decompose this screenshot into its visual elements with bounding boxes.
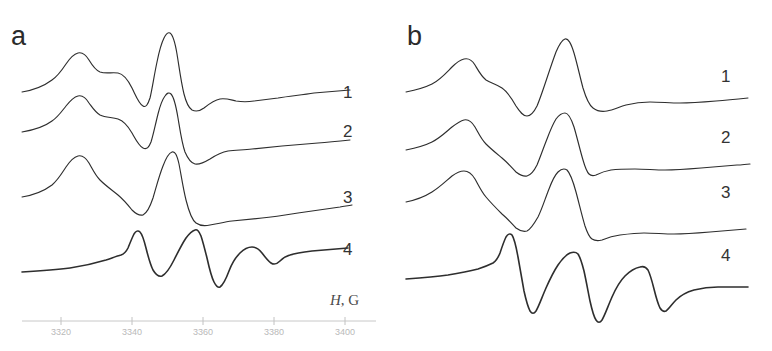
- x-axis-tick-label: 3380: [264, 327, 284, 337]
- panel-b-curve-3: [406, 169, 746, 241]
- panel-b-curve-1: [406, 39, 748, 116]
- x-axis-tick-label: 3340: [122, 327, 142, 337]
- x-axis-tick-label: 3320: [51, 327, 71, 337]
- panel-a-x-axis: [0, 0, 386, 351]
- panel-b: b 1 2 3 4: [386, 0, 772, 351]
- x-axis-unit-symbol: H: [330, 292, 341, 308]
- x-axis-unit-name: G: [348, 292, 359, 308]
- x-axis-tick-label: 3400: [335, 327, 355, 337]
- panel-b-curve-label-1: 1: [721, 67, 730, 87]
- panel-b-curve-label-2: 2: [721, 128, 730, 148]
- x-axis-tick-label: 3360: [193, 327, 213, 337]
- panel-b-plot: [386, 0, 772, 351]
- panel-a: a 1 2 3 4 3320 3340 3360 3380 3400: [0, 0, 386, 351]
- panel-b-curve-4: [406, 234, 748, 322]
- epr-spectra-figure: a 1 2 3 4 3320 3340 3360 3380 3400: [0, 0, 772, 351]
- panel-b-curve-label-3: 3: [721, 183, 730, 203]
- x-axis-unit-separator: ,: [341, 292, 345, 308]
- panel-b-curve-2: [406, 113, 750, 176]
- x-axis-unit-label: H, G: [330, 292, 359, 309]
- panel-b-curve-label-4: 4: [721, 246, 730, 266]
